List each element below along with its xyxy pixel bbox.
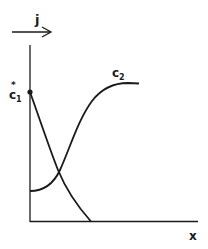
x-axis-label: x xyxy=(189,229,197,243)
svg-text:2: 2 xyxy=(119,73,125,82)
c1-label: c 1 * xyxy=(9,80,22,104)
svg-text:1: 1 xyxy=(16,95,22,104)
c1-curve xyxy=(30,92,91,222)
c1-star-point xyxy=(27,89,32,94)
svg-text:*: * xyxy=(11,80,16,90)
concentration-profile-diagram: j x c 1 * c 2 xyxy=(0,0,208,249)
flux-arrow-icon xyxy=(12,27,51,37)
flux-label: j xyxy=(34,12,39,27)
c2-label: c 2 xyxy=(112,66,125,82)
